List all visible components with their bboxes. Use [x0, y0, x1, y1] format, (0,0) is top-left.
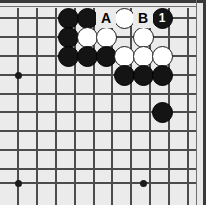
stone-black-0	[58, 8, 79, 29]
star-point-2	[140, 180, 147, 187]
stone-black-8	[58, 46, 79, 67]
board-inner-rule-right	[196, 0, 197, 205]
go-diagram-figure: 1 AB	[0, 0, 206, 205]
stone-black-1	[77, 8, 98, 29]
stone-white-6	[96, 27, 117, 48]
point-label-a: A	[96, 8, 116, 28]
stone-white-11	[114, 46, 135, 67]
move-number-label: 1	[159, 12, 166, 24]
star-point-0	[15, 72, 22, 79]
grid-line-horizontal-9	[0, 182, 196, 184]
stone-black-17	[152, 102, 173, 123]
stone-black-14	[114, 65, 135, 86]
stone-black-16	[152, 65, 173, 86]
grid-line-horizontal-8	[0, 168, 196, 170]
stone-white-2	[114, 8, 135, 29]
point-label-b: B	[133, 8, 153, 28]
stone-black-4	[58, 27, 79, 48]
grid-line-horizontal-6	[0, 130, 196, 132]
stone-black-9	[77, 46, 98, 67]
stone-black-numbered-1: 1	[152, 8, 173, 29]
grid-line-horizontal-7	[0, 149, 196, 151]
board-inner-rule-top	[0, 6, 196, 7]
stone-white-5	[77, 27, 98, 48]
stone-white-12	[133, 46, 154, 67]
stone-white-13	[152, 46, 173, 67]
stone-black-15	[133, 65, 154, 86]
star-point-1	[15, 180, 22, 187]
stone-white-7	[133, 27, 154, 48]
grid-line-horizontal-4	[0, 93, 196, 95]
